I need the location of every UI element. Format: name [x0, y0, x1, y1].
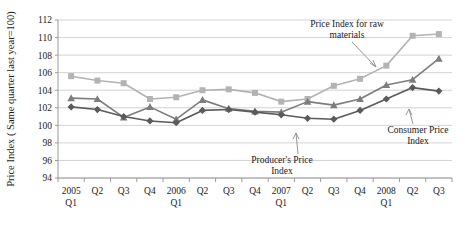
data-point-marker [68, 73, 74, 79]
data-point-marker [226, 86, 232, 92]
x-tick-label-8-line2: Q1 [275, 198, 287, 208]
y-tick-label-102: 102 [38, 103, 53, 113]
y-tick-label-106: 106 [38, 68, 53, 78]
y-tick-label-94: 94 [43, 173, 53, 183]
data-point-marker [436, 31, 442, 37]
data-point-marker [121, 80, 127, 86]
price-index-line-chart: 949698100102104106108110112 2005Q1Q2Q3Q4… [0, 0, 468, 235]
data-point-marker [94, 78, 100, 84]
x-tick-label-0-line2: Q1 [65, 198, 77, 208]
x-tick-label-5-line1: Q2 [197, 186, 209, 196]
data-point-marker [252, 90, 258, 96]
x-tick-label-9-line1: Q2 [302, 186, 314, 196]
x-tick-label-4-line2: Q1 [170, 198, 182, 208]
annotation-raw-materials-line2: materials [330, 30, 365, 40]
y-tick-label-110: 110 [38, 33, 52, 43]
x-tick-label-7-line1: Q4 [249, 186, 261, 196]
data-point-marker [331, 83, 337, 89]
data-point-marker [383, 63, 389, 69]
x-tick-label-3-line1: Q4 [144, 186, 156, 196]
y-tick-label-112: 112 [38, 15, 52, 25]
data-point-marker [357, 76, 363, 82]
x-tick-label-14-line1: Q3 [433, 186, 445, 196]
x-tick-label-8-line1: 2007 [272, 186, 291, 196]
x-tick-label-12-line2: Q1 [381, 198, 393, 208]
data-point-marker [278, 99, 284, 105]
x-tick-label-1-line1: Q2 [92, 186, 104, 196]
x-tick-label-6-line1: Q3 [223, 186, 235, 196]
y-tick-label-108: 108 [38, 51, 53, 61]
x-tick-label-0-line1: 2005 [62, 186, 81, 196]
annotation-producers-line2: Index [271, 166, 293, 176]
x-tick-label-13-line1: Q2 [407, 186, 419, 196]
y-tick-label-104: 104 [38, 86, 53, 96]
x-tick-label-12-line1: 2008 [377, 186, 396, 196]
annotation-consumer-line1: Consumer Price [388, 125, 449, 135]
y-tick-label-100: 100 [38, 121, 53, 131]
data-point-marker [147, 96, 153, 102]
chart-container: 949698100102104106108110112 2005Q1Q2Q3Q4… [0, 0, 468, 235]
x-tick-label-2-line1: Q3 [118, 186, 130, 196]
data-point-marker [410, 33, 416, 39]
annotation-producers-line1: Producer's Price [251, 155, 313, 165]
y-tick-label-98: 98 [43, 138, 53, 148]
x-tick-label-4-line1: 2006 [167, 186, 186, 196]
y-axis-title: Price Index ( Same quarter last year=100… [5, 11, 17, 187]
data-point-marker [199, 87, 205, 93]
annotation-consumer-line2: Index [407, 136, 429, 146]
data-point-marker [173, 94, 179, 100]
x-tick-label-10-line1: Q3 [328, 186, 340, 196]
y-tick-label-96: 96 [43, 156, 53, 166]
annotation-raw-materials-line1: Price Index for raw [310, 19, 384, 29]
x-tick-label-11-line1: Q4 [354, 186, 366, 196]
